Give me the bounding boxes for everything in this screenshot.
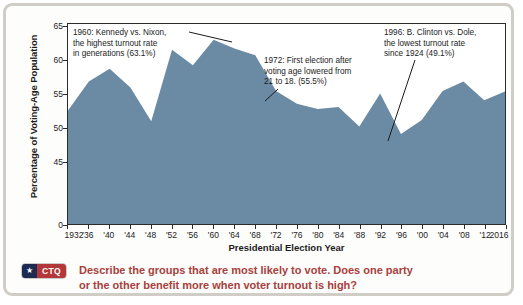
x-tick-label: '76 <box>291 230 302 240</box>
x-tick-mark <box>234 225 235 229</box>
annotation-1972: 1972: First election after voting age lo… <box>264 56 374 88</box>
x-tick-mark <box>151 225 152 229</box>
y-tick-mark <box>63 225 67 226</box>
figure-frame: Percentage of Voting-Age Population 6560… <box>3 3 514 296</box>
x-tick-label: 2016 <box>490 230 509 240</box>
x-tick-label: '80 <box>312 230 323 240</box>
x-axis-tick-labels: 1932'36'40'44'48'52'56'60'64'68'72'76'80… <box>67 230 506 242</box>
x-tick-label: '96 <box>396 230 407 240</box>
x-tick-mark <box>192 225 193 229</box>
y-tick-label: 50 <box>41 124 63 133</box>
figure-inner: Percentage of Voting-Age Population 6560… <box>6 6 511 293</box>
x-tick-label: 1932 <box>65 230 84 240</box>
ctq-badge[interactable]: ★ CTQ <box>22 264 66 278</box>
x-tick-mark <box>255 225 256 229</box>
x-tick-label: '08 <box>459 230 470 240</box>
x-tick-mark <box>422 225 423 229</box>
x-tick-label: '52 <box>166 230 177 240</box>
x-tick-label: '64 <box>229 230 240 240</box>
x-tick-mark <box>67 225 68 229</box>
x-tick-mark <box>464 225 465 229</box>
x-tick-label: '88 <box>354 230 365 240</box>
y-tick-mark <box>63 60 67 61</box>
x-tick-mark <box>339 225 340 229</box>
x-tick-mark <box>401 225 402 229</box>
x-tick-label: '48 <box>145 230 156 240</box>
star-icon: ★ <box>26 267 33 275</box>
x-tick-mark <box>506 225 507 229</box>
x-tick-mark <box>130 225 131 229</box>
annotation-1996: 1996: B. Clinton vs. Dole, the lowest tu… <box>384 28 499 60</box>
x-tick-mark <box>109 225 110 229</box>
x-tick-label: '72 <box>271 230 282 240</box>
x-tick-mark <box>276 225 277 229</box>
y-tick-mark <box>63 26 67 27</box>
y-tick-label: 65 <box>41 22 63 31</box>
ctq-badge-text-panel: CTQ <box>37 264 66 278</box>
y-tick-mark <box>63 128 67 129</box>
x-tick-label: '84 <box>333 230 344 240</box>
x-tick-label: '44 <box>124 230 135 240</box>
ctq-badge-label: CTQ <box>42 267 61 276</box>
x-tick-label: '60 <box>208 230 219 240</box>
x-tick-mark <box>485 225 486 229</box>
ctq-badge-star-panel: ★ <box>22 264 37 278</box>
x-tick-label: '68 <box>250 230 261 240</box>
x-tick-label: '00 <box>417 230 428 240</box>
x-tick-mark <box>297 225 298 229</box>
y-tick-mark <box>63 162 67 163</box>
x-tick-label: '36 <box>82 230 93 240</box>
y-axis-tick-labels: 65605550450 <box>39 6 63 236</box>
y-tick-label: 45 <box>41 158 63 167</box>
x-tick-mark <box>360 225 361 229</box>
y-tick-label: 0 <box>41 221 63 230</box>
caption-row: ★ CTQ Describe the groups that are most … <box>22 263 502 292</box>
x-tick-mark <box>88 225 89 229</box>
y-axis-title: Percentage of Voting-Age Population <box>28 17 39 217</box>
y-tick-label: 55 <box>41 90 63 99</box>
x-axis-title: Presidential Election Year <box>67 242 506 253</box>
x-tick-mark <box>172 225 173 229</box>
x-tick-mark <box>443 225 444 229</box>
y-tick-mark <box>63 94 67 95</box>
caption-question-text: Describe the groups that are most likely… <box>79 263 413 292</box>
y-tick-label: 60 <box>41 56 63 65</box>
x-tick-mark <box>213 225 214 229</box>
x-tick-label: '56 <box>187 230 198 240</box>
x-tick-label: '92 <box>375 230 386 240</box>
x-tick-mark <box>381 225 382 229</box>
x-tick-label: '40 <box>103 230 114 240</box>
x-tick-label: '04 <box>438 230 449 240</box>
annotation-1960: 1960: Kennedy vs. Nixon, the highest tur… <box>73 28 188 60</box>
x-tick-mark <box>318 225 319 229</box>
